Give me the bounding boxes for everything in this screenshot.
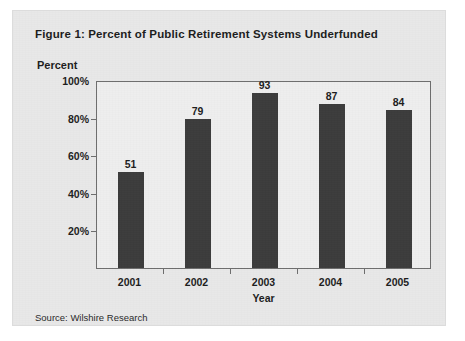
bar xyxy=(118,172,144,268)
y-axis-tick-label: 40% xyxy=(68,188,89,200)
figure-root: Figure 1: Percent of Public Retirement S… xyxy=(0,0,465,341)
bar-value-label: 79 xyxy=(192,105,204,117)
y-axis-tick-labels: 20%40%60%80%100% xyxy=(37,81,89,269)
bar xyxy=(252,93,278,268)
x-axis-tick-mark xyxy=(163,269,164,274)
figure-panel: Figure 1: Percent of Public Retirement S… xyxy=(12,10,446,326)
y-axis-title: Percent xyxy=(37,59,77,71)
x-axis-tick-label: 2002 xyxy=(185,276,208,288)
bar-group: 79 xyxy=(164,82,231,268)
y-axis-tick-label: 60% xyxy=(68,150,89,162)
bar-value-label: 87 xyxy=(326,90,338,102)
bar-value-label: 51 xyxy=(125,158,137,170)
bar xyxy=(185,119,211,268)
x-axis-tick-label: 2003 xyxy=(252,276,275,288)
x-axis-tick-mark xyxy=(297,269,298,274)
figure-title: Figure 1: Percent of Public Retirement S… xyxy=(35,28,378,40)
plot-area: 5179938784 xyxy=(96,81,431,269)
x-axis-tick-mark xyxy=(364,269,365,274)
bars-layer: 5179938784 xyxy=(97,82,430,268)
bar xyxy=(386,110,412,268)
bar xyxy=(319,104,345,268)
x-axis-tick-label: 2005 xyxy=(386,276,409,288)
x-axis-tick-label: 2004 xyxy=(319,276,342,288)
x-axis-tick-marks xyxy=(96,269,431,276)
bar-group: 93 xyxy=(231,82,298,268)
x-axis-tick-labels: 20012002200320042005 xyxy=(96,276,431,292)
y-axis-tick-label: 20% xyxy=(68,225,89,237)
x-axis-tick-label: 2001 xyxy=(118,276,141,288)
y-axis-tick-label: 80% xyxy=(68,113,89,125)
y-axis-tick-label: 100% xyxy=(62,75,89,87)
x-axis-title: Year xyxy=(96,292,431,304)
bar-group: 84 xyxy=(365,82,432,268)
source-note: Source: Wilshire Research xyxy=(35,312,147,323)
bar-value-label: 93 xyxy=(259,79,271,91)
bar-group: 87 xyxy=(298,82,365,268)
bar-group: 51 xyxy=(97,82,164,268)
x-axis-tick-mark xyxy=(230,269,231,274)
bar-value-label: 84 xyxy=(393,96,405,108)
